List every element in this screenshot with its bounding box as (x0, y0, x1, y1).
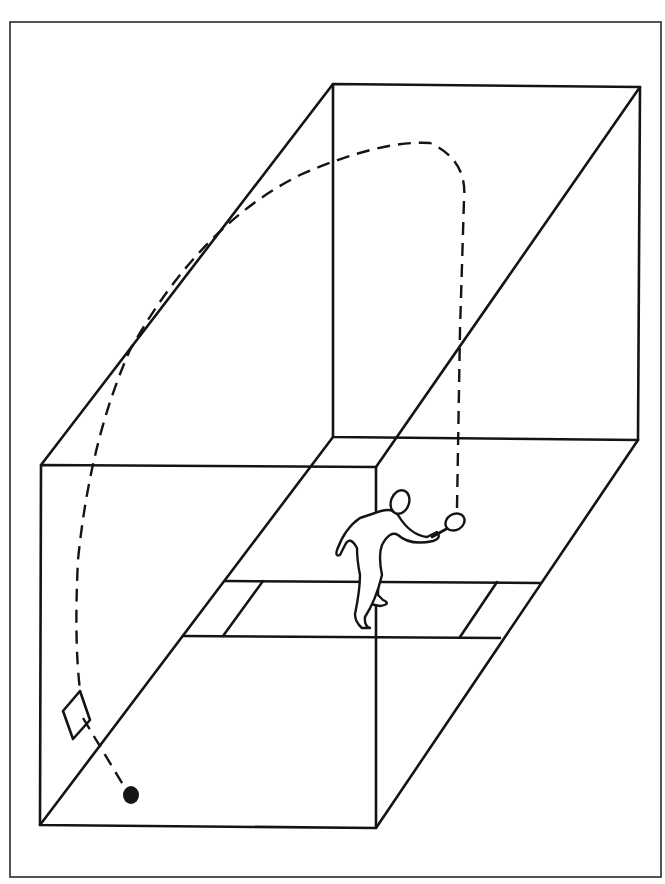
ceiling-right-edge (376, 87, 640, 467)
front-wall-frame (40, 465, 376, 828)
ball (123, 786, 139, 804)
service-box-left (223, 581, 263, 636)
figure-frame (10, 22, 661, 877)
back-wall (333, 84, 640, 440)
ceiling-left-edge (41, 84, 333, 465)
rebound-path-dashed (83, 718, 128, 793)
ball-path-dashed (76, 143, 464, 690)
player-body (336, 510, 438, 628)
bounce-mark (63, 691, 90, 739)
floor-right-edge (376, 440, 638, 828)
player (336, 488, 467, 628)
court (40, 84, 640, 828)
court-diagram (0, 0, 665, 884)
service-box-right (460, 582, 497, 637)
floor-left-edge (40, 437, 333, 825)
short-line (183, 636, 500, 638)
service-line (225, 581, 540, 583)
trajectory (76, 143, 464, 793)
